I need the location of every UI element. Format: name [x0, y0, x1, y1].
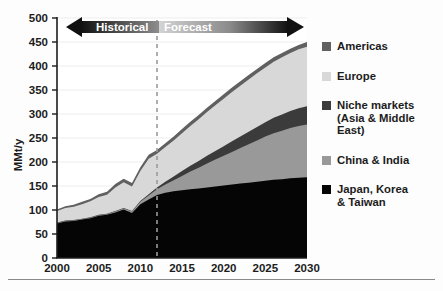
- x-tick-labels: 2000200520102015202020252030: [44, 262, 320, 274]
- x-tick-label: 2030: [294, 262, 320, 274]
- x-tick-label: 2010: [128, 262, 154, 274]
- legend-item-china[interactable]: China & India: [322, 154, 442, 167]
- legend-label: Japan, Korea & Taiwan: [337, 183, 408, 208]
- forecast-label: Forecast: [164, 21, 212, 33]
- y-tick-label: 50: [35, 228, 48, 240]
- x-tick-label: 2000: [44, 262, 70, 274]
- legend-swatch-icon: [322, 101, 331, 110]
- x-tick-label: 2015: [169, 262, 195, 274]
- y-tick-label: 450: [29, 36, 48, 48]
- legend-swatch-icon: [322, 185, 331, 194]
- x-tick-label: 2020: [211, 262, 237, 274]
- chart-legend: AmericasEuropeNiche markets (Asia & Midd…: [322, 40, 442, 225]
- y-tick-label: 300: [29, 108, 48, 120]
- y-tick-label: 200: [29, 156, 48, 168]
- x-tick-label: 2025: [253, 262, 279, 274]
- footer-divider: [8, 279, 435, 280]
- legend-item-americas[interactable]: Americas: [322, 40, 442, 53]
- legend-swatch-icon: [322, 156, 331, 165]
- x-tick-label: 2005: [86, 262, 112, 274]
- legend-label: China & India: [337, 154, 409, 167]
- legend-item-japan[interactable]: Japan, Korea & Taiwan: [322, 183, 442, 208]
- legend-label: Americas: [337, 40, 388, 53]
- legend-item-niche-markets[interactable]: Niche markets (Asia & Middle East): [322, 99, 442, 137]
- legend-label: Europe: [337, 70, 376, 83]
- historical-label: Historical: [96, 21, 148, 33]
- y-tick-label: 100: [29, 204, 48, 216]
- legend-swatch-icon: [322, 72, 331, 81]
- y-tick-label: 350: [29, 84, 48, 96]
- legend-swatch-icon: [322, 42, 331, 51]
- y-tick-label: 250: [29, 132, 48, 144]
- chart-figure: Historical Forecast 50045040035030025020…: [0, 0, 443, 291]
- y-tick-label: 400: [29, 60, 48, 72]
- legend-label: Niche markets (Asia & Middle East): [337, 99, 442, 137]
- y-tick-label: 500: [29, 12, 48, 24]
- legend-item-europe[interactable]: Europe: [322, 70, 442, 83]
- y-axis-title: MMt/y: [12, 138, 24, 171]
- y-tick-label: 150: [29, 180, 48, 192]
- y-tick-labels: 500450400350300250200150100500: [29, 12, 48, 264]
